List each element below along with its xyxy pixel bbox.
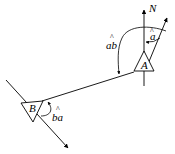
bearing-diagram: N A a ^ ab ^ B ba ^ (0, 0, 175, 154)
line-ab (42, 72, 134, 101)
station-b-label: B (29, 102, 36, 114)
angle-ba-hat: ^ (56, 105, 60, 114)
angle-ba-arc (41, 102, 51, 116)
angle-ab-hat: ^ (110, 33, 114, 42)
station-a-label: A (140, 59, 148, 71)
angle-a-hat: ^ (150, 27, 154, 36)
north-label: N (148, 2, 157, 14)
